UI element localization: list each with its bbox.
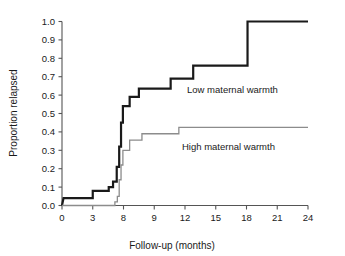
y-axis-tick-label: 0.4 — [42, 126, 55, 137]
x-axis-tick-label: 3 — [90, 212, 95, 223]
y-axis-tick-label: 0.7 — [42, 71, 55, 82]
series-annotation-low: Low maternal warmth — [187, 84, 278, 95]
x-axis-tick-label: 24 — [303, 212, 314, 223]
x-axis-tick-label: 0 — [59, 212, 64, 223]
y-axis-tick-label: 0.3 — [42, 145, 55, 156]
x-axis-tick-label: 12 — [180, 212, 191, 223]
x-axis-tick-label: 8 — [121, 212, 126, 223]
x-axis-tick-label: 9 — [152, 212, 157, 223]
y-axis-tick-label: 0.8 — [42, 53, 55, 64]
y-axis-tick-label: 0.5 — [42, 108, 55, 119]
x-axis-tick-label: 15 — [210, 212, 221, 223]
y-axis-tick-label: 0.6 — [42, 90, 55, 101]
x-axis-title: Follow-up (months) — [129, 240, 215, 251]
chart-figure: 0.00.10.20.30.40.50.60.70.80.91.0 038912… — [0, 0, 345, 256]
y-axis-tick-label: 0.2 — [42, 163, 55, 174]
y-axis-tick-label: 0.9 — [42, 34, 55, 45]
y-axis-tick-label: 0.1 — [42, 182, 55, 193]
series-annotation-high: High maternal warmth — [182, 141, 275, 152]
x-axis-tick-label: 18 — [241, 212, 252, 223]
x-axis-tick-label: 21 — [272, 212, 283, 223]
y-axis-tick-label: 1.0 — [42, 16, 55, 27]
relapse-survival-chart: 0.00.10.20.30.40.50.60.70.80.91.0 038912… — [0, 0, 345, 256]
y-axis-title: Proportion relapsed — [8, 69, 19, 156]
y-axis-tick-label: 0.0 — [42, 200, 55, 211]
